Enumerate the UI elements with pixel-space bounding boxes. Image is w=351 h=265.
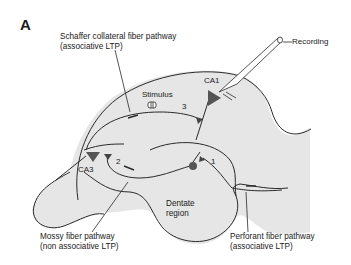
dentate-label: Dentate region: [166, 199, 195, 218]
synapse-3-number: 3: [182, 102, 186, 111]
stimulus-label: Stimulus: [142, 90, 173, 99]
recording-label: Recording: [292, 37, 328, 46]
mossy-label: Mossy fiber pathway (non associative LTP…: [40, 232, 119, 251]
schaffer-label: Schaffer collateral fiber pathway (assoc…: [60, 32, 176, 51]
ca3-label: CA3: [78, 165, 94, 174]
ca1-label: CA1: [204, 76, 220, 85]
synapse-1-number: 1: [211, 157, 215, 166]
perforant-label: Perforant fiber pathway (associative LTP…: [230, 232, 315, 251]
stimulus-electrode: [148, 102, 156, 108]
synapse-2-number: 2: [116, 157, 120, 166]
panel-label: A: [20, 16, 31, 33]
granule-cell: [189, 162, 197, 170]
